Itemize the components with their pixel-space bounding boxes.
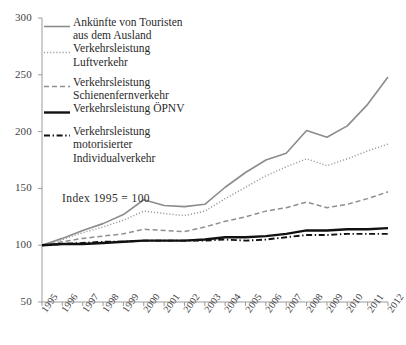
y-tick-label: 100 (6, 238, 32, 250)
legend-label-0: Ankünfte von Touristen aus dem Ausland (73, 16, 183, 42)
index-base-annotation: Index 1995 = 100 (62, 192, 150, 204)
chart-legend: Ankünfte von Touristen aus dem AuslandVe… (44, 16, 244, 165)
y-axis-ticks (38, 18, 42, 302)
y-tick-label: 50 (6, 295, 32, 307)
legend-swatch-solid-icon (44, 105, 70, 118)
legend-swatch-solid-icon (44, 19, 70, 32)
legend-label-4: Verkehrsleistung motorisierter Individua… (73, 125, 155, 165)
y-tick-label: 300 (6, 11, 32, 23)
legend-label-3: Verkehrsleistung ÖPNV (73, 102, 184, 115)
legend-label-2: Verkehrsleistung Schienenfernverkehr (73, 76, 169, 102)
legend-item-3[interactable]: Verkehrsleistung ÖPNV (44, 102, 244, 118)
legend-swatch-dashed-icon (44, 79, 70, 92)
legend-swatch-dotted-icon (44, 45, 70, 58)
legend-label-1: Verkehrsleistung Luftverkehr (73, 42, 150, 68)
legend-spacer (44, 118, 244, 125)
legend-item-4[interactable]: Verkehrsleistung motorisierter Individua… (44, 125, 244, 165)
legend-spacer (44, 69, 244, 76)
y-tick-label: 200 (6, 125, 32, 137)
legend-swatch-dashdot-icon (44, 128, 70, 141)
y-tick-label: 250 (6, 68, 32, 80)
legend-item-1[interactable]: Verkehrsleistung Luftverkehr (44, 42, 244, 68)
legend-item-2[interactable]: Verkehrsleistung Schienenfernverkehr (44, 76, 244, 102)
legend-item-0[interactable]: Ankünfte von Touristen aus dem Ausland (44, 16, 244, 42)
y-tick-label: 150 (6, 181, 32, 193)
